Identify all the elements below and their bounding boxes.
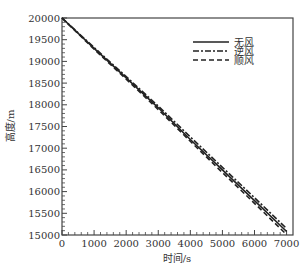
y-tick-label: 17000 [28,143,60,154]
x-tick-label: 5000 [210,238,235,249]
y-tick-label: 20000 [28,13,60,24]
y-tick-label: 15000 [28,230,60,241]
y-tick-label: 17500 [28,121,60,132]
x-tick-label: 1000 [81,238,106,249]
axis-ticks: 0100020003000400050006000700015000155001… [28,13,299,250]
x-tick-label: 7000 [274,238,299,249]
legend: 无风逆风顺风 [193,37,254,66]
x-tick-label: 4000 [178,238,203,249]
chart: 0100020003000400050006000700015000155001… [0,0,308,275]
x-tick-label: 3000 [146,238,171,249]
x-tick-label: 2000 [113,238,138,249]
y-tick-label: 15500 [28,208,60,219]
y-tick-label: 16500 [28,164,60,175]
y-axis-title: 高度/m [4,109,16,142]
y-tick-label: 19000 [28,56,60,67]
y-tick-label: 18000 [28,99,60,110]
y-tick-label: 16000 [28,186,60,197]
y-tick-label: 19500 [28,34,60,45]
x-axis-title: 时间/s [163,252,192,264]
legend-label: 顺风 [234,55,254,66]
y-tick-label: 18500 [28,78,60,89]
x-tick-label: 6000 [242,238,267,249]
